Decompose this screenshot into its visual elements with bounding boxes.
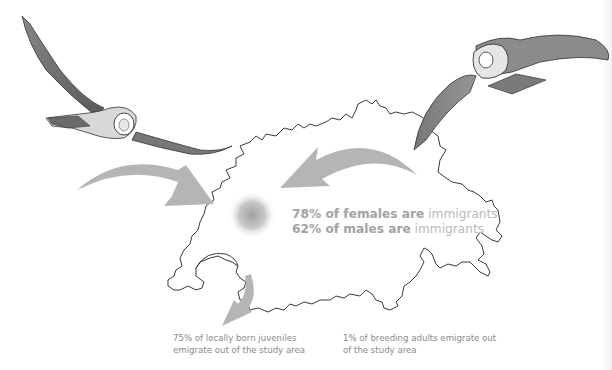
arrow-immigration-east (280, 147, 417, 188)
stat-line-females: 78% of females are immigrants (292, 207, 498, 222)
arrow-immigration-west (77, 164, 214, 206)
stat-line-males: 62% of males are immigrants (292, 222, 498, 237)
barn-owl-right-illustration (414, 35, 609, 150)
stat-females-light: immigrants (424, 207, 497, 221)
caption-juvenile-emigration: 75% of locally born juveniles emigrate o… (173, 333, 305, 356)
barn-owl-left-illustration (22, 16, 232, 154)
stat-males-light: immigrants (411, 222, 484, 236)
switzerland-map-outline (168, 100, 502, 312)
study-area-hotspot (228, 191, 276, 239)
caption-adult-line-1: 1% of breeding adults emigrate out (343, 333, 496, 345)
immigration-stats: 78% of females are immigrants 62% of mal… (292, 207, 498, 237)
stat-females-bold: 78% of females are (292, 207, 424, 221)
illustration-canvas (0, 0, 612, 370)
caption-juvenile-line-2: emigrate out of the study area (173, 345, 305, 357)
caption-juvenile-line-1: 75% of locally born juveniles (173, 333, 305, 345)
arrow-emigration-south (222, 274, 254, 326)
caption-adult-line-2: of the study area (343, 345, 496, 357)
caption-adult-emigration: 1% of breeding adults emigrate out of th… (343, 333, 496, 356)
stat-males-bold: 62% of males are (292, 222, 411, 236)
